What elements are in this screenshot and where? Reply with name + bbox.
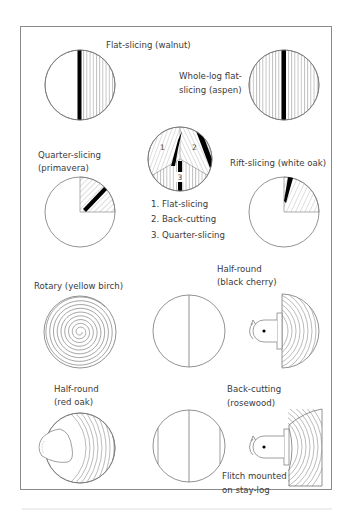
- combined-methods-panel: 1 2 3 1. Flat-slicing 2. Back-cutting 3.…: [140, 120, 225, 240]
- quarter-slicing-log: [45, 177, 115, 247]
- rotary-panel: Rotary (yellow birch): [34, 281, 123, 368]
- rotation-arrow-icon: [250, 439, 253, 455]
- flat-slicing-label: Flat-slicing (walnut): [106, 40, 191, 50]
- flat-slicing-cut: [78, 49, 82, 121]
- stay-log-plate: [277, 313, 282, 349]
- rotary-spiral: [46, 297, 112, 365]
- region-number-1: 1: [160, 143, 165, 152]
- rotary-label: Rotary (yellow birch): [34, 281, 123, 291]
- quarter-slicing-panel: Quarter-slicing (primavera): [38, 150, 115, 247]
- red-oak-label-line-1: Half-round: [54, 384, 99, 394]
- red-oak-stay-log: [39, 429, 73, 462]
- stay-log-plate: [284, 429, 289, 465]
- whole-log-flat-slicing-log: [248, 48, 320, 123]
- flat-slicing-panel: Flat-slicing (walnut): [45, 40, 191, 123]
- rift-slicing-log: [249, 177, 319, 247]
- legend-item-1: 1. Flat-slicing: [151, 199, 208, 209]
- back-cutting-rosewood-log: [153, 410, 225, 482]
- stay-log-arm: [253, 436, 284, 458]
- half-round-red-oak-panel: Half-round (red oak): [0, 374, 115, 522]
- rotary-log: [44, 296, 116, 368]
- combined-log: 1 2 3: [140, 120, 222, 195]
- quarter-slicing-label-line-2: (primavera): [38, 163, 89, 173]
- legend-item-3: 3. Quarter-slicing: [151, 230, 225, 240]
- red-oak-label-line-2: (red oak): [54, 397, 93, 407]
- region-number-2: 2: [192, 143, 197, 152]
- rift-slicing-panel: Rift-slicing (white oak): [230, 158, 326, 247]
- black-cherry-label-line-1: Half-round: [217, 264, 262, 274]
- legend-item-2: 2. Back-cutting: [151, 214, 216, 224]
- flitch-note-line-1: Flitch mounted: [222, 471, 287, 481]
- flitch-note-line-2: on stay-log: [222, 485, 270, 495]
- whole-log-cut: [282, 49, 287, 121]
- rotation-arrow-icon: [250, 323, 253, 339]
- black-cherry-label-line-2: (black cherry): [217, 277, 277, 287]
- whole-log-label-line-2: slicing (aspen): [179, 85, 242, 95]
- quarter-slicing-label-line-1: Quarter-slicing: [38, 150, 101, 160]
- whole-log-flat-slicing-panel: Whole-log flat- slicing (aspen): [179, 48, 320, 123]
- flat-slicing-log: [45, 48, 120, 123]
- half-round-black-cherry-log: [153, 295, 225, 367]
- rift-slicing-label: Rift-slicing (white oak): [230, 158, 326, 168]
- veneer-diagram: Flat-slicing (walnut) Whole-log flat- sl…: [0, 0, 350, 524]
- rosewood-label-line-2: (rosewood): [227, 398, 275, 408]
- pivot-dot: [262, 329, 265, 332]
- whole-log-label-line-1: Whole-log flat-: [179, 71, 242, 81]
- rosewood-label-line-1: Back-cutting: [227, 384, 281, 394]
- pivot-dot: [262, 445, 265, 448]
- region-number-3: 3: [178, 173, 183, 182]
